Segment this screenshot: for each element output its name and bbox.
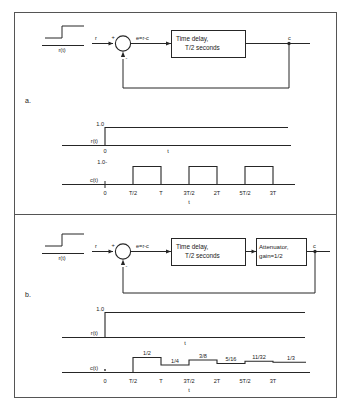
attenuator-block-line2: gain=1/2 [259, 252, 283, 259]
c-tick-label-2: 3T/2 [183, 378, 194, 384]
c-tick-label-0: T/2 [129, 190, 137, 196]
c-tick-label-0: T/2 [129, 378, 137, 384]
c-plot-ylabel: c(t) [90, 365, 98, 371]
figure-container: a. r(t) r + - e=r-c Time delay, T/ [0, 0, 351, 410]
step-input-icon [42, 234, 84, 254]
figure-outer-frame [15, 13, 337, 398]
time-delay-block-line1: Time delay, [176, 243, 209, 251]
error-arrowhead [166, 42, 171, 46]
time-delay-block-line1: Time delay, [176, 35, 209, 43]
sum-minus-sign: - [126, 263, 128, 269]
panel-b-plot-r-of-t: r(t) 1.0 t [62, 306, 305, 346]
r-plot-ylabel: r(t) [91, 138, 98, 144]
c-tick-label-4: 5T/2 [239, 378, 250, 384]
c-tick-label-2: 3T/2 [183, 190, 194, 196]
panel-b-label: b. [25, 291, 31, 298]
input-signal-label: r [95, 35, 97, 41]
input-signal-label: r [95, 243, 97, 249]
r-step-trace [105, 128, 288, 146]
c-step-label-1: 1/4 [171, 358, 179, 364]
c-plot-xlabel: t [188, 199, 190, 205]
c-plot-origin-label: 0 [103, 378, 106, 384]
feedback-arrowhead [121, 260, 125, 266]
c-plot-ylabel: c(t) [90, 177, 98, 183]
panel-b-plot-c-of-t: c(t) 1/2 1/4 3/8 5/16 11/32 1/3 0 T/2 T … [62, 350, 310, 393]
panel-a-block-diagram: r(t) r + - e=r-c Time delay, T/2 seconds… [42, 26, 310, 88]
feedback-arrowhead [121, 52, 125, 58]
c-step-label-3: 5/16 [226, 356, 237, 362]
error-signal-label: e=r-c [136, 35, 149, 41]
c-plot-origin-label: 0 [103, 190, 106, 196]
c-tick-label-5: 3T [270, 190, 277, 196]
sum-minus-sign: - [126, 55, 128, 61]
panel-b-block-diagram: r(t) r + - e=r-c Time delay, T/2 seconds… [42, 234, 330, 293]
summing-junction [115, 36, 130, 51]
panel-a-plot-c-of-t: c(t) 1.0- 0 T/2 T 3T/2 2T 5T/2 3T t [62, 159, 295, 205]
step-input-icon [42, 26, 84, 46]
c-tick-label-3: 2T [214, 190, 221, 196]
c-tick-label-1: T [159, 190, 163, 196]
input-arrowhead [109, 250, 114, 254]
interblock-arrowhead [252, 250, 257, 254]
panel-a-plot-r-of-t: r(t) 1.0 0 t [62, 121, 291, 154]
attenuator-block-line1: Attenuator, [259, 243, 289, 250]
panel-a: a. r(t) r + - e=r-c Time delay, T/ [25, 26, 310, 205]
c-pulse-train-trace [105, 167, 290, 185]
input-symbol-label: r(t) [58, 255, 65, 261]
c-plot-xlabel: t [188, 387, 190, 393]
error-signal-label: e=r-c [136, 243, 149, 249]
output-signal-label: c [313, 243, 316, 249]
c-step-label-5: 1/3 [287, 355, 295, 361]
r-plot-ylabel: r(t) [91, 330, 98, 336]
r-plot-amplitude-label: 1.0 [96, 121, 104, 127]
c-origin-dot [104, 369, 106, 371]
panel-a-label: a. [25, 97, 31, 104]
r-plot-xlabel: t [184, 340, 186, 346]
panel-b: b. r(t) r + - e=r-c Time delay, T/2 seco… [25, 234, 330, 393]
sum-plus-sign: + [112, 34, 115, 40]
c-step-label-0: 1/2 [143, 350, 151, 356]
c-step-label-2: 3/8 [199, 353, 207, 359]
r-plot-origin-label: 0 [103, 148, 106, 154]
c-tick-label-1: T [159, 378, 163, 384]
r-plot-amplitude-label: 1.0 [96, 306, 104, 312]
input-symbol-label: r(t) [58, 47, 65, 53]
c-tick-label-4: 5T/2 [239, 190, 250, 196]
sum-plus-sign: + [112, 242, 115, 248]
c-staircase-trace [105, 358, 306, 373]
summing-junction [115, 244, 130, 259]
time-delay-block-line2: T/2 seconds [185, 44, 220, 51]
r-step-trace [105, 313, 305, 338]
error-arrowhead [166, 250, 171, 254]
c-tick-label-5: 3T [270, 378, 277, 384]
c-plot-amplitude-label: 1.0- [97, 159, 107, 165]
input-arrowhead [109, 42, 114, 46]
c-step-label-4: 11/32 [252, 354, 266, 360]
r-plot-xlabel: t [167, 148, 169, 154]
c-tick-label-3: 2T [214, 378, 221, 384]
output-signal-label: c [288, 35, 291, 41]
time-delay-block-line2: T/2 seconds [185, 252, 220, 259]
